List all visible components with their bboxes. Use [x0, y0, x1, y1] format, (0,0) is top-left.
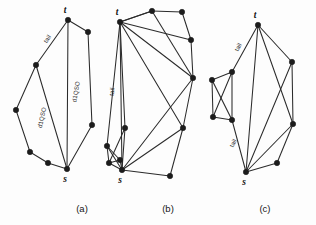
- graph-node: [180, 125, 185, 130]
- edge-group: [107, 11, 193, 176]
- graph-node-t: [117, 19, 122, 24]
- graph-node-s: [64, 166, 69, 171]
- graph-edge: [212, 80, 213, 117]
- panel-b: tailts: [104, 0, 204, 195]
- edge-label-group: tail: [107, 87, 115, 96]
- graph-node: [45, 160, 50, 165]
- graph-edge: [182, 12, 191, 40]
- graph-edge: [120, 22, 191, 40]
- caption-c: (c): [245, 203, 285, 214]
- panel-c: tailtailts: [208, 0, 304, 195]
- edge-group: [212, 25, 293, 172]
- graph-edge: [258, 25, 293, 124]
- edge-group: [16, 20, 92, 169]
- graph-edge: [292, 62, 293, 124]
- graph-node: [27, 149, 32, 154]
- graph-node: [85, 29, 90, 34]
- node-label-t: t: [254, 10, 257, 20]
- graph-node: [229, 69, 234, 74]
- panel-c-graph: tailtailts: [208, 0, 304, 195]
- graph-edge: [36, 20, 68, 65]
- graph-edge: [68, 20, 88, 32]
- node-label-t: t: [64, 5, 67, 15]
- graph-edge: [246, 25, 258, 172]
- graph-node: [179, 9, 184, 14]
- graph-node-t: [255, 22, 260, 27]
- node-label-t: t: [116, 7, 119, 17]
- node-group: ts: [104, 7, 195, 185]
- graph-edge: [122, 170, 170, 176]
- graph-edge: [30, 152, 48, 163]
- graph-edge: [88, 32, 92, 125]
- graph-edge: [120, 22, 183, 128]
- edge-label-tail: tail: [42, 33, 52, 44]
- edge-label-tail: tail: [107, 87, 115, 96]
- graph-edge: [120, 11, 152, 22]
- caption-a: (a): [62, 203, 102, 214]
- graph-edge: [16, 110, 30, 152]
- graph-node-t: [65, 17, 70, 22]
- graph-edge: [183, 78, 193, 128]
- node-label-s: s: [241, 177, 246, 187]
- graph-edge: [152, 11, 193, 78]
- graph-node: [229, 117, 234, 122]
- graph-edge: [277, 124, 293, 163]
- graph-edge: [212, 80, 232, 120]
- graph-node: [274, 160, 279, 165]
- graph-node: [289, 59, 294, 64]
- graph-node: [290, 121, 295, 126]
- graph-edge: [246, 62, 292, 172]
- graph-node: [122, 125, 127, 130]
- caption-b: (b): [148, 203, 188, 214]
- node-label-s: s: [117, 175, 122, 185]
- graph-node: [149, 8, 154, 13]
- graph-edge: [120, 22, 193, 78]
- graph-node-s: [243, 169, 248, 174]
- edge-label-d1qso: d1QSO: [36, 106, 47, 128]
- graph-edge: [191, 40, 193, 78]
- graph-node: [190, 75, 195, 80]
- graph-edge: [67, 20, 68, 169]
- edge-label-tail: tail: [233, 42, 243, 53]
- node-group: ts: [13, 5, 94, 184]
- edge-label-tail: tail: [228, 138, 238, 149]
- node-label-s: s: [62, 174, 67, 184]
- graph-node: [210, 114, 215, 119]
- graph-node: [89, 122, 94, 127]
- edge-label-d1qso: d1QSO: [70, 80, 81, 102]
- graph-node-s: [119, 167, 124, 172]
- graph-node: [106, 160, 111, 165]
- graph-node: [13, 107, 18, 112]
- graph-edge: [258, 25, 292, 62]
- panel-a: taild1QSOd1QSOts: [8, 0, 100, 195]
- graph-edge: [67, 125, 92, 169]
- graph-edge: [16, 65, 36, 110]
- graph-edge: [122, 78, 193, 170]
- graph-node: [209, 77, 214, 82]
- graph-node: [117, 157, 122, 162]
- graph-node: [33, 62, 38, 67]
- panel-b-graph: tailts: [104, 0, 204, 195]
- panel-a-graph: taild1QSOd1QSOts: [8, 0, 100, 195]
- graph-node: [167, 173, 172, 178]
- graph-node: [188, 37, 193, 42]
- edge-label-group: taild1QSOd1QSO: [36, 33, 81, 128]
- figure-container: taild1QSOd1QSOts tailts tailtailts (a) (…: [0, 0, 316, 225]
- graph-node: [104, 143, 109, 148]
- graph-edge: [152, 11, 182, 12]
- graph-edge: [107, 22, 120, 146]
